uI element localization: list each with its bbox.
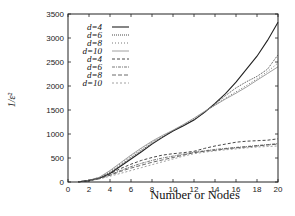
legend: d=4d=6d=8d=10d=4d=6d=8d=10 bbox=[82, 22, 129, 88]
x-axis-label: Number or Nodes bbox=[150, 188, 240, 202]
series-line-upper-d4 bbox=[79, 22, 279, 182]
y-tick-label: 0 bbox=[60, 178, 65, 187]
series-line-upper-d10 bbox=[79, 67, 279, 182]
x-tick-label: 2 bbox=[87, 185, 92, 194]
y-tick-label: 3500 bbox=[46, 10, 64, 19]
y-tick-label: 1000 bbox=[46, 130, 64, 139]
x-tick-label: 4 bbox=[108, 185, 113, 194]
series-line-upper-d8 bbox=[79, 63, 279, 182]
legend-label: d=10 bbox=[82, 78, 102, 88]
y-tick-label: 2000 bbox=[46, 82, 64, 91]
series-line-upper-d6 bbox=[79, 55, 279, 182]
y-tick-label: 500 bbox=[51, 154, 65, 163]
x-tick-label: 20 bbox=[274, 185, 283, 194]
x-tick-label: 0 bbox=[66, 185, 71, 194]
x-tick-label: 6 bbox=[129, 185, 134, 194]
plot-series bbox=[79, 22, 279, 182]
y-tick-label: 3000 bbox=[46, 34, 64, 43]
line-chart: 02468101214161820 0500100015002000250030… bbox=[0, 0, 295, 216]
series-line-lower-d10 bbox=[79, 146, 279, 182]
y-tick-label: 1500 bbox=[46, 106, 64, 115]
y-tick-label: 2500 bbox=[46, 58, 64, 67]
x-tick-label: 18 bbox=[253, 185, 262, 194]
y-axis-label: 1/ε² bbox=[6, 92, 17, 108]
y-axis: 0500100015002000250030003500 bbox=[46, 10, 278, 187]
series-line-lower-d8 bbox=[79, 144, 279, 182]
